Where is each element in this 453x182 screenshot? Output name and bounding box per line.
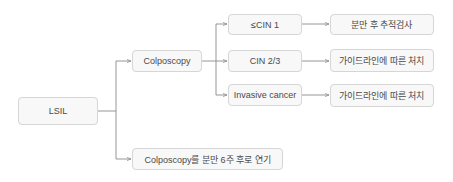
result-cin1-node: ≤CIN 1 bbox=[228, 14, 302, 35]
delay-colposcopy-label: Colposcopy를 분만 6주 후로 연기 bbox=[144, 153, 270, 166]
action-cin23-label: 가이드라인에 따른 처치 bbox=[339, 54, 424, 67]
action-cin1-node: 분만 후 추적검사 bbox=[330, 14, 434, 35]
delay-colposcopy-node: Colposcopy를 분만 6주 후로 연기 bbox=[132, 148, 283, 170]
action-cin23-node: 가이드라인에 따른 처치 bbox=[330, 49, 434, 72]
action-invasive-node: 가이드라인에 따른 처치 bbox=[330, 84, 434, 107]
action-cin1-label: 분만 후 추적검사 bbox=[351, 18, 412, 31]
lsil-node: LSIL bbox=[18, 97, 98, 125]
lsil-label: LSIL bbox=[49, 106, 68, 116]
result-invasive-node: Invasive cancer bbox=[228, 84, 302, 106]
result-invasive-label: Invasive cancer bbox=[234, 90, 297, 100]
colposcopy-node: Colposcopy bbox=[132, 50, 202, 72]
action-invasive-label: 가이드라인에 따른 처치 bbox=[339, 89, 424, 102]
colposcopy-label: Colposcopy bbox=[143, 56, 190, 66]
result-cin23-label: CIN 2/3 bbox=[250, 56, 281, 66]
result-cin23-node: CIN 2/3 bbox=[228, 50, 302, 72]
result-cin1-label: ≤CIN 1 bbox=[251, 20, 279, 30]
